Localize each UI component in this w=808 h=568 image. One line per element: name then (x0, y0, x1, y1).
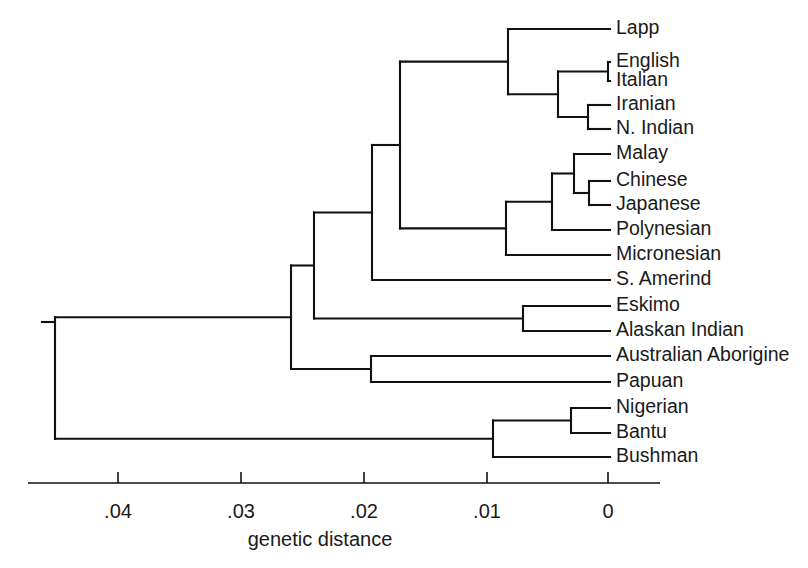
genetic-distance-axis: .04.03.02.010genetic distance (28, 472, 660, 550)
axis-tick-label: .03 (227, 500, 255, 522)
leaf-label: Japanese (616, 192, 701, 214)
leaf-label: Malay (616, 141, 668, 163)
leaf-label: Lapp (616, 16, 660, 38)
leaf-label: N. Indian (616, 116, 694, 138)
leaf-label: Eskimo (616, 293, 680, 315)
tree-diagram-canvas: LappEnglishItalianIranianN. IndianMalayC… (0, 0, 808, 568)
leaf-label: Bushman (616, 444, 698, 466)
leaf-label: Bantu (616, 420, 667, 442)
axis-tick-label: .04 (104, 500, 132, 522)
leaf-label: Iranian (616, 92, 676, 114)
axis-title: genetic distance (248, 528, 393, 550)
leaf-label: Chinese (616, 168, 688, 190)
leaf-label: Papuan (616, 369, 683, 391)
leaf-label: Nigerian (616, 395, 689, 417)
axis-tick-label: .02 (350, 500, 378, 522)
leaf-label: Italian (616, 68, 668, 90)
leaf-label: Polynesian (616, 217, 711, 239)
phylogenetic-tree-figure: LappEnglishItalianIranianN. IndianMalayC… (0, 0, 808, 568)
leaf-label: S. Amerind (616, 267, 711, 289)
tree-branches (42, 29, 610, 457)
axis-tick-label: 0 (602, 500, 613, 522)
leaf-label: Alaskan Indian (616, 318, 744, 340)
axis-tick-label: .01 (473, 500, 501, 522)
tree-leaf-labels: LappEnglishItalianIranianN. IndianMalayC… (616, 16, 789, 466)
leaf-label: Micronesian (616, 242, 721, 264)
leaf-label: Australian Aborigine (616, 343, 789, 365)
